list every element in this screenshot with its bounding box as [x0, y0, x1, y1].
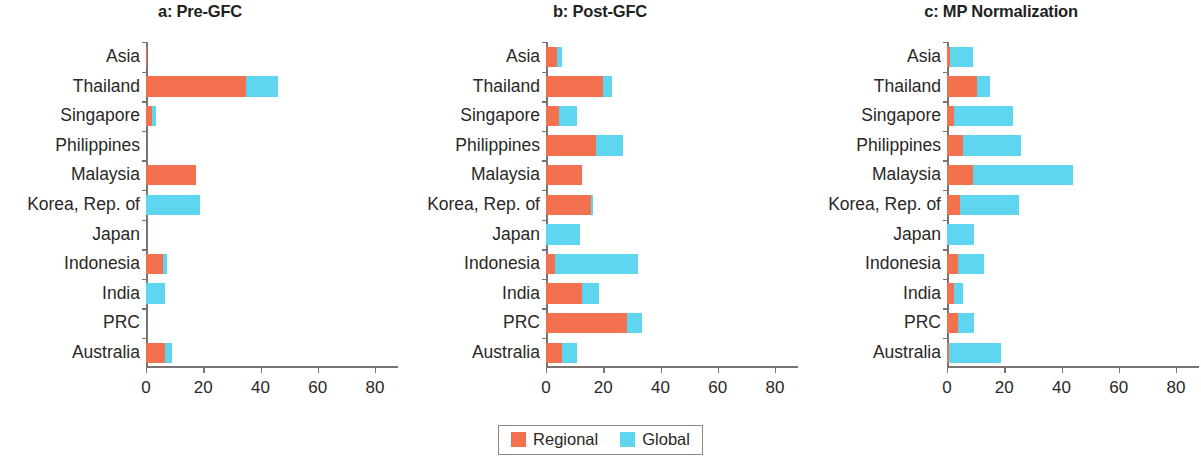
y-axis-tick	[943, 101, 948, 102]
y-axis-tick	[943, 131, 948, 132]
x-axis-tick	[1062, 368, 1063, 373]
category-label: Japan	[893, 220, 941, 250]
bar-segment-regional	[546, 135, 596, 156]
bar-segment-global	[555, 254, 638, 275]
y-axis-tick	[542, 190, 547, 191]
bar-segment-regional	[146, 76, 246, 97]
bar-segment-regional	[546, 283, 582, 304]
category-label: PRC	[503, 308, 540, 338]
y-axis-tick	[542, 220, 547, 221]
bar-segment-global	[603, 76, 612, 97]
legend: Regional Global	[0, 425, 1201, 455]
legend-swatch-regional-icon	[511, 432, 526, 447]
bar-segment-global	[973, 165, 1073, 186]
bar-segment-global	[557, 47, 562, 68]
y-axis-tick	[542, 42, 547, 43]
x-axis-tick-label: 20	[194, 378, 213, 398]
category-label: Singapore	[60, 101, 140, 131]
bar-segment-regional	[546, 106, 559, 127]
category-label: India	[903, 279, 941, 309]
x-axis-tick-label: 0	[141, 378, 150, 398]
y-axis-tick	[542, 279, 547, 280]
x-axis-tick-label: 80	[766, 378, 785, 398]
category-label: Malaysia	[471, 160, 540, 190]
bar-segment-regional	[546, 343, 562, 364]
x-axis-tick	[1119, 368, 1120, 373]
bar-segment-regional	[146, 254, 163, 275]
x-axis-line	[546, 366, 798, 368]
plot-area-c: AsiaThailandSingaporePhilippinesMalaysia…	[801, 42, 1201, 372]
bar-segment-global	[958, 254, 984, 275]
y-axis-tick	[943, 190, 948, 191]
category-axis-c: AsiaThailandSingaporePhilippinesMalaysia…	[801, 42, 947, 368]
y-axis-tick	[542, 338, 547, 339]
panel-pre-gfc: a: Pre-GFCAsiaThailandSingaporePhilippin…	[0, 0, 400, 420]
bar-segment-global	[591, 195, 593, 216]
bar-segment-regional	[947, 283, 954, 304]
bar-segment-regional	[947, 165, 973, 186]
bar-segment-global	[949, 343, 1001, 364]
category-label: PRC	[103, 308, 140, 338]
y-axis-tick	[142, 338, 147, 339]
panel-post-gfc: b: Post-GFCAsiaThailandSingaporePhilippi…	[400, 0, 800, 420]
category-label: Thailand	[73, 72, 140, 102]
bar-segment-global	[163, 254, 167, 275]
value-axis-area-a: 020406080	[146, 42, 400, 368]
category-label: Japan	[492, 220, 540, 250]
bar-segment-global	[958, 313, 974, 334]
y-axis-tick	[142, 72, 147, 73]
bar-segment-global	[954, 283, 963, 304]
x-axis-tick-label: 40	[251, 378, 270, 398]
y-axis-tick	[542, 249, 547, 250]
bar-segment-global	[960, 195, 1019, 216]
category-label: Malaysia	[872, 160, 941, 190]
bar-segment-regional	[146, 165, 196, 186]
category-axis-a: AsiaThailandSingaporePhilippinesMalaysia…	[0, 42, 146, 368]
bar-segment-regional	[546, 195, 591, 216]
legend-box: Regional Global	[498, 425, 703, 455]
category-label: Asia	[106, 42, 140, 72]
bar-segment-regional	[546, 313, 627, 334]
plot-area-a: AsiaThailandSingaporePhilippinesMalaysia…	[0, 42, 400, 372]
x-axis-tick	[318, 368, 319, 373]
y-axis-tick	[943, 160, 948, 161]
bar-segment-global	[963, 135, 1021, 156]
bar-segment-regional	[146, 47, 147, 68]
x-axis-tick-label: 20	[995, 378, 1014, 398]
y-axis-tick	[542, 101, 547, 102]
category-axis-b: AsiaThailandSingaporePhilippinesMalaysia…	[400, 42, 546, 368]
y-axis-tick	[142, 160, 147, 161]
x-axis-tick	[718, 368, 719, 373]
category-label: Singapore	[460, 101, 540, 131]
y-axis-tick	[142, 279, 147, 280]
bar-segment-regional	[546, 254, 555, 275]
category-label: Australia	[72, 338, 140, 368]
bar-segment-global	[627, 313, 642, 334]
x-axis-line	[146, 366, 398, 368]
bar-segment-global	[582, 283, 599, 304]
bar-segment-regional	[546, 47, 557, 68]
x-axis-tick	[1004, 368, 1005, 373]
legend-item-regional: Regional	[511, 430, 598, 449]
bar-segment-global	[546, 224, 580, 245]
value-axis-area-b: 020406080	[546, 42, 800, 368]
bar-segment-global	[562, 343, 577, 364]
panel-title-c: c: MP Normalization	[801, 2, 1201, 21]
x-axis-tick	[203, 368, 204, 373]
value-axis-area-c: 020406080	[947, 42, 1201, 368]
bar-segment-global	[152, 106, 156, 127]
category-label: Philippines	[856, 131, 941, 161]
x-axis-tick	[261, 368, 262, 373]
category-label: Philippines	[55, 131, 140, 161]
y-axis-tick	[943, 249, 948, 250]
x-axis-tick	[146, 368, 147, 373]
category-label: Indonesia	[865, 249, 941, 279]
x-axis-tick	[661, 368, 662, 373]
category-label: Japan	[92, 220, 140, 250]
x-axis-tick	[775, 368, 776, 373]
y-axis-tick	[943, 220, 948, 221]
bar-segment-regional	[546, 76, 603, 97]
bar-segment-regional	[947, 76, 977, 97]
category-label: Asia	[506, 42, 540, 72]
x-axis-tick-label: 60	[308, 378, 327, 398]
